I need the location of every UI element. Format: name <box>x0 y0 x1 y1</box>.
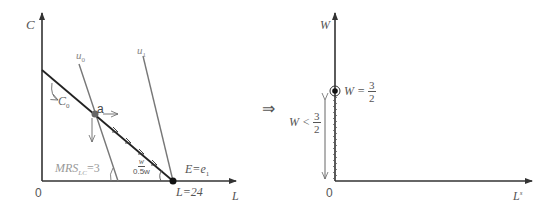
endowment-value: L=24 <box>176 186 203 198</box>
point-a-label: a <box>97 103 104 115</box>
w-equals-label: W = 32 <box>344 80 376 104</box>
implies-arrow-icon: ⇒ <box>262 101 275 117</box>
l-axis-label: L <box>232 190 239 202</box>
slope-label: w0.5w <box>133 158 150 176</box>
right-origin-label: 0 <box>326 187 333 199</box>
mrs-angle-arc <box>110 168 113 181</box>
w-axis-label: W <box>320 19 330 31</box>
left-axes <box>42 13 236 181</box>
diagram-canvas <box>0 0 557 209</box>
w-point <box>332 88 338 94</box>
c0-label: C0 <box>58 95 70 110</box>
endowment-label: E=e1 <box>185 163 209 178</box>
c-axis-label: C <box>26 18 35 31</box>
w-less-label: W < 32 <box>289 111 321 135</box>
u1-label: u1 <box>137 45 146 59</box>
u0-label: u0 <box>76 50 85 64</box>
ls-axis-label: Ls <box>513 190 522 202</box>
mrs-label: MRSLC=3 <box>55 162 100 177</box>
endowment-point <box>170 178 177 185</box>
left-origin-label: 0 <box>35 187 42 199</box>
